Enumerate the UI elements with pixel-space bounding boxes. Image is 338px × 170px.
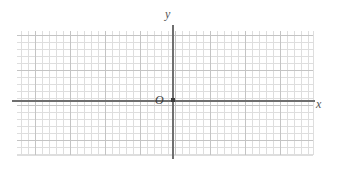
x-axis-label: x [316, 98, 321, 110]
origin-point-marker [171, 98, 175, 102]
origin-label: O [155, 94, 164, 106]
grid-canvas [0, 0, 338, 170]
y-axis-label: y [165, 8, 170, 20]
grid-lines [17, 31, 313, 155]
grid-major [17, 31, 313, 155]
coordinate-grid-figure: y x O [0, 0, 338, 170]
